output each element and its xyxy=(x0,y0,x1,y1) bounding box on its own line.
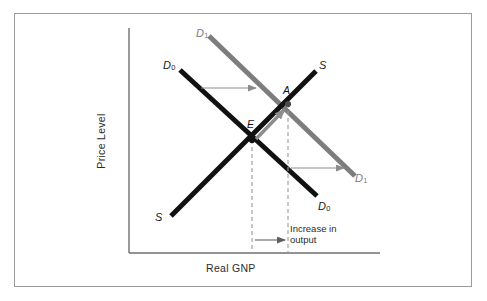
curve-label-d0-top: D0 xyxy=(163,59,176,72)
point-label-a: A xyxy=(283,84,290,96)
figure-root: D1 D0 S D1 D0 S E A Increase in output R… xyxy=(0,0,487,301)
point-label-e: E xyxy=(247,118,254,130)
curve-label-d1-bottom-subscript: 1 xyxy=(363,176,367,185)
supply-curve-s xyxy=(171,71,316,216)
y-axis-title: Price Level xyxy=(95,113,107,168)
curve-label-d0-bottom: D0 xyxy=(318,200,331,213)
annotation-increase-in-output: Increase in output xyxy=(290,223,336,245)
curve-label-supply-bottom: S xyxy=(155,211,163,223)
curve-label-d0-bottom-letter: D xyxy=(318,200,326,212)
x-axis-title: Real GNP xyxy=(206,262,256,274)
plot-canvas xyxy=(0,0,487,301)
point-marker-e xyxy=(249,137,255,143)
point-marker-a xyxy=(285,101,291,107)
curve-label-d1-bottom: D1 xyxy=(355,172,368,185)
curve-label-d0-bottom-subscript: 0 xyxy=(326,204,330,213)
curve-label-d1-bottom-letter: D xyxy=(355,172,363,184)
curve-label-d0-top-subscript: 0 xyxy=(171,63,175,72)
curve-label-supply-top: S xyxy=(319,59,327,71)
curve-label-d1-top-subscript: 1 xyxy=(204,31,208,40)
curve-label-d1-top: D1 xyxy=(196,27,209,40)
curve-label-d0-top-letter: D xyxy=(163,59,171,71)
curve-label-d1-top-letter: D xyxy=(196,27,204,39)
